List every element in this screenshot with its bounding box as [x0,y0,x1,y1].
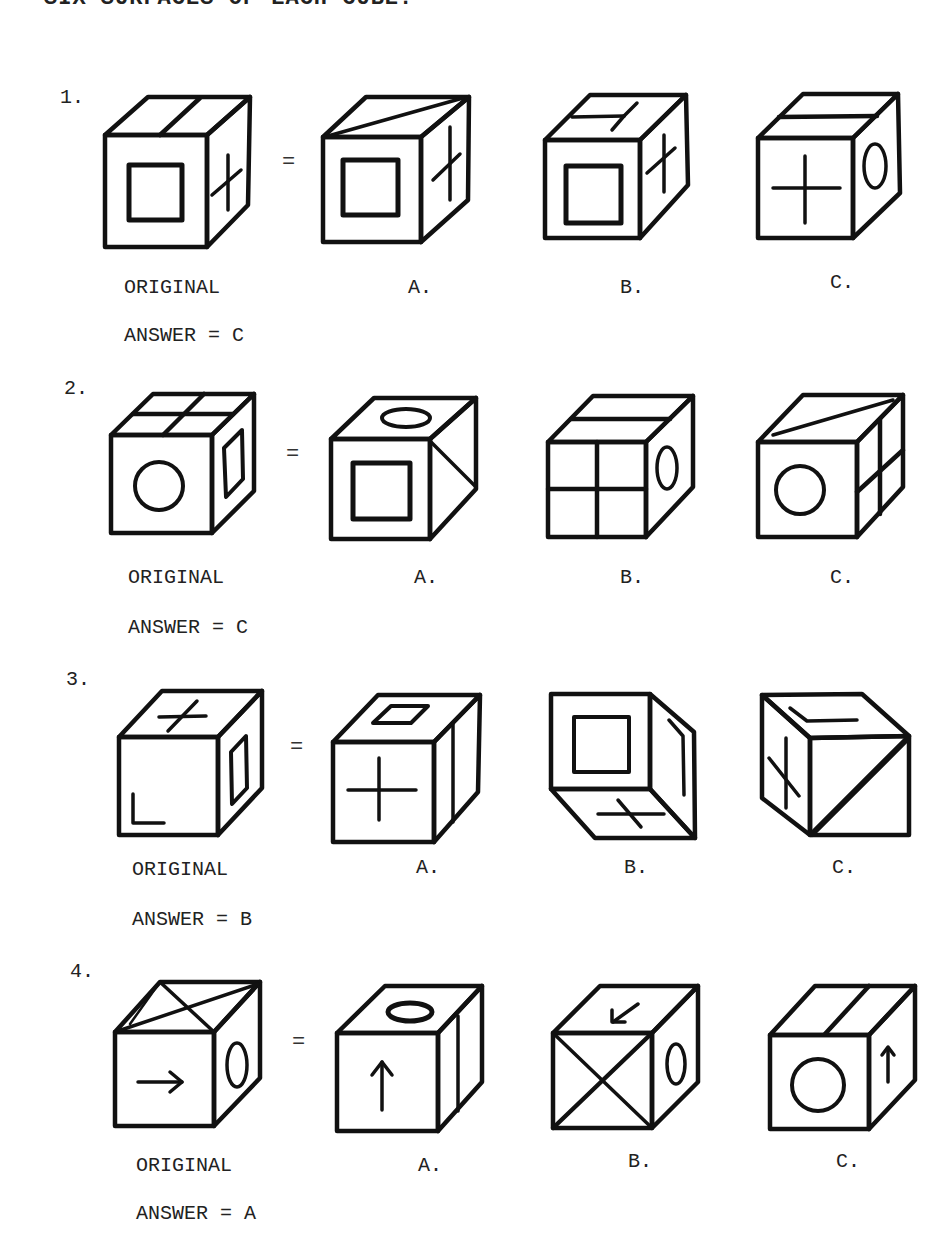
label-b: B. [620,566,644,589]
label-a: A. [414,566,438,589]
label-b: B. [624,856,648,879]
cube-original [110,978,270,1138]
label-b: B. [620,276,644,299]
question-number: 1. [60,86,84,109]
cube-option-a [318,92,478,252]
page-heading: SIX SURFACES OF EACH CUBE. [44,0,413,11]
label-c: C. [830,566,854,589]
label-original: ORIGINAL [124,276,220,299]
label-original: ORIGINAL [136,1154,232,1177]
cube-original [114,688,274,848]
cube-option-c [753,392,913,552]
equals-sign: = [282,150,295,175]
cube-option-c [753,88,913,248]
answer-text: ANSWER = C [124,324,244,347]
cube-option-a [328,692,488,852]
cube-option-b [543,392,703,552]
cube-option-b [548,982,708,1142]
label-a: A. [418,1154,442,1177]
label-c: C. [836,1150,860,1173]
cube-option-a [326,394,486,554]
question-number: 2. [64,377,88,400]
cube-option-c [757,688,917,848]
label-original: ORIGINAL [128,566,224,589]
label-c: C. [832,856,856,879]
cube-option-a [332,982,492,1142]
label-original: ORIGINAL [132,858,228,881]
cube-option-b [540,90,700,250]
label-c: C. [830,271,854,294]
answer-text: ANSWER = A [136,1202,256,1225]
label-b: B. [628,1150,652,1173]
cube-original [100,95,260,255]
label-a: A. [408,276,432,299]
answer-text: ANSWER = C [128,616,248,639]
label-a: A. [416,856,440,879]
equals-sign: = [290,735,303,760]
question-number: 4. [70,960,94,983]
answer-text: ANSWER = B [132,908,252,931]
cube-option-b [546,690,706,850]
cube-original [106,391,266,551]
equals-sign: = [286,442,299,467]
equals-sign: = [292,1030,305,1055]
question-number: 3. [66,668,90,691]
cube-option-c [765,982,925,1142]
